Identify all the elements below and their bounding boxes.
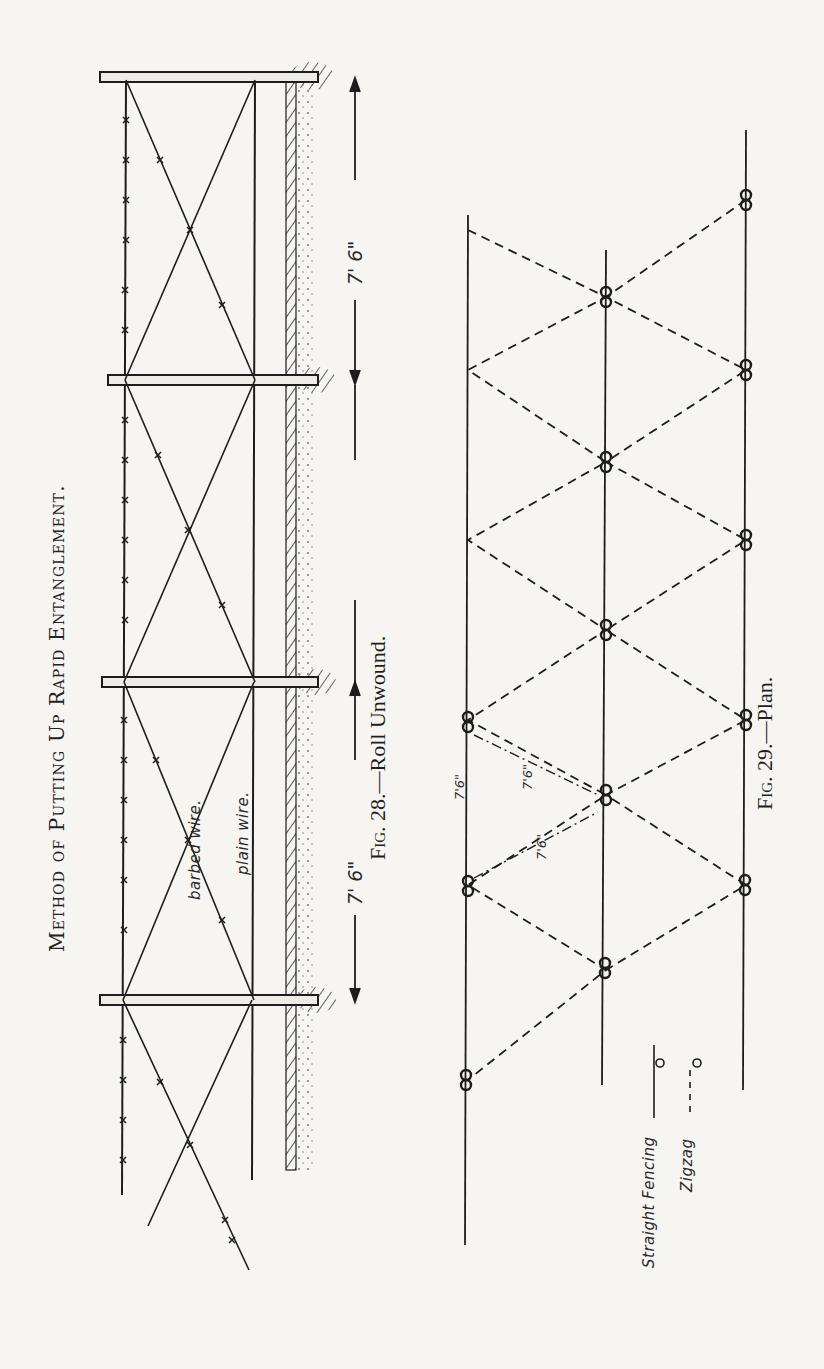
figure-29-title: —Plan. — [752, 677, 777, 744]
plain-wire-label: plain wire. — [234, 792, 252, 875]
dimension-label-1: 7' 6" — [344, 241, 366, 285]
book-page: Method of Putting Up Rapid Entanglement.… — [0, 0, 824, 1369]
page-title: Method of Putting Up Rapid Entanglement. — [45, 484, 69, 952]
legend-straight-fencing-label: Straight Fencing — [640, 1137, 658, 1268]
barbed-wire-label: barbed wire. — [186, 799, 204, 900]
dimension-label-2: 7' 6" — [344, 861, 366, 905]
plain-wire-line — [252, 78, 255, 1180]
figure-29-plan — [461, 130, 751, 1245]
diagonal-barbs — [153, 157, 235, 1243]
figure-28-title: —Roll Unwound. — [365, 636, 390, 794]
post-4 — [100, 995, 318, 1005]
barbed-wire-line — [120, 78, 129, 1195]
legend-samples — [654, 1045, 701, 1118]
figure-29-caption: Fig. 29.—Plan. — [752, 677, 778, 810]
figure-28-label: Fig. 28. — [365, 793, 390, 860]
post-1 — [100, 72, 318, 82]
fig29-dimension-2: 7'6" — [534, 834, 549, 860]
post-2 — [108, 375, 318, 385]
diagonal-wires — [123, 80, 255, 1270]
figure-28-caption: Fig. 28.—Roll Unwound. — [365, 636, 391, 860]
posts — [100, 72, 318, 1005]
legend-zigzag-label: Zigzag — [678, 1138, 696, 1192]
fig29-dimension-1: 7'6" — [520, 764, 535, 790]
figure-28-roll-unwound — [100, 62, 360, 1270]
fig29-dimension-3: 7'6" — [452, 774, 467, 800]
post-3 — [102, 677, 318, 687]
figure-29-label: Fig. 29. — [752, 743, 777, 810]
figures-canvas — [0, 0, 824, 1369]
